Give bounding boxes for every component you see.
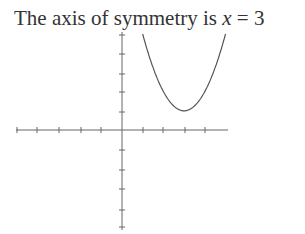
parabola-curve bbox=[143, 34, 226, 111]
graph bbox=[0, 0, 305, 234]
